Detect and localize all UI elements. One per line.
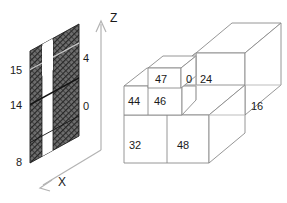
- white-stripe: [42, 0, 53, 203]
- left-plane-label-4: 4: [83, 53, 89, 64]
- white-stripe-group: [42, 0, 53, 203]
- left-plane-label-14: 14: [10, 100, 22, 111]
- hatched-plane-overlay: [30, 24, 79, 163]
- figure-container: 15 14 8 4 0 Z X 47 44 46 0 24 16 32 48: [0, 0, 287, 203]
- block-label-16: 16: [251, 101, 263, 112]
- block-label-24: 24: [200, 74, 212, 85]
- block-label-46: 46: [154, 96, 166, 107]
- block-label-47: 47: [155, 74, 167, 85]
- axis-label-z: Z: [110, 12, 117, 24]
- block-label-44: 44: [128, 96, 140, 107]
- block-label-48: 48: [177, 140, 189, 151]
- axis-label-x: X: [58, 176, 66, 188]
- stripe-notch: [42, 40, 53, 76]
- z-axis: [96, 21, 106, 150]
- left-plane-label-8: 8: [16, 157, 22, 168]
- slanted-plane-group: [20, 0, 106, 203]
- left-plane-label-15: 15: [10, 65, 22, 76]
- x-axis: [40, 150, 101, 191]
- isometric-blocks-group: [124, 23, 281, 163]
- figure-svg: [0, 0, 287, 203]
- block-label-32: 32: [129, 140, 141, 151]
- block-label-0: 0: [186, 74, 192, 85]
- left-plane-label-0: 0: [83, 101, 89, 112]
